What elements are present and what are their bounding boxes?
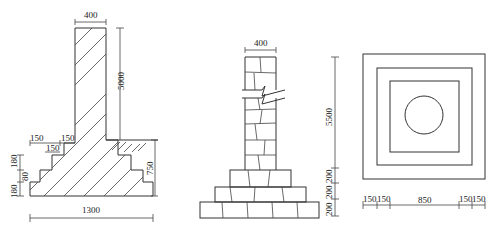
- dim-ground-depth: 750: [145, 161, 155, 175]
- dim-plan-w-3: 850: [418, 195, 432, 205]
- dim-plan-step-3: 200: [324, 202, 334, 216]
- dim-middle-top-width: 400: [254, 38, 268, 48]
- right-plan: 5500 200 200 200 150 150 850 150 150: [324, 54, 486, 216]
- dim-plan-height: 5500: [324, 108, 334, 127]
- dim-plan-w-4: 150: [459, 194, 473, 204]
- dim-step-width-2: 150: [46, 143, 60, 153]
- dim-step-height-3: 180: [9, 184, 19, 198]
- dim-step-width-3: 150: [61, 133, 75, 143]
- dim-step-height-2: 80: [20, 172, 30, 182]
- left-section: 400 5000 750 150 150 150 180 80 180 1300: [0, 0, 280, 222]
- dim-plan-step-1: 200: [324, 169, 334, 183]
- soil-hatch: [112, 142, 146, 152]
- dim-plan-w-5: 150: [472, 194, 486, 204]
- middle-section: 400: [200, 38, 319, 218]
- dim-column-height: 5000: [116, 72, 126, 91]
- dim-plan-w-2: 150: [377, 194, 391, 204]
- dim-base-width: 1300: [82, 205, 101, 215]
- dim-step-width-1: 150: [30, 133, 44, 143]
- dim-top-width: 400: [84, 10, 98, 20]
- dim-plan-w-1: 150: [363, 194, 377, 204]
- foundation-drawings: 400 5000 750 150 150 150 180 80 180 1300: [0, 0, 493, 235]
- dim-step-height-1: 180: [9, 154, 19, 168]
- dim-plan-step-2: 200: [324, 185, 334, 199]
